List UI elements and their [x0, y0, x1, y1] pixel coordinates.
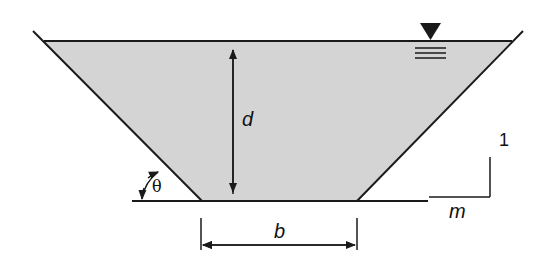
channel-diagram: d b θ 1 m	[0, 0, 549, 266]
slope-horizontal-label: m	[449, 200, 466, 222]
depth-label: d	[242, 108, 254, 130]
water-area	[42, 41, 512, 201]
angle-label: θ	[152, 177, 162, 196]
slope-vertical-label: 1	[499, 130, 509, 150]
slope-ratio-indicator	[429, 157, 490, 197]
bottom-width-label: b	[274, 220, 285, 242]
